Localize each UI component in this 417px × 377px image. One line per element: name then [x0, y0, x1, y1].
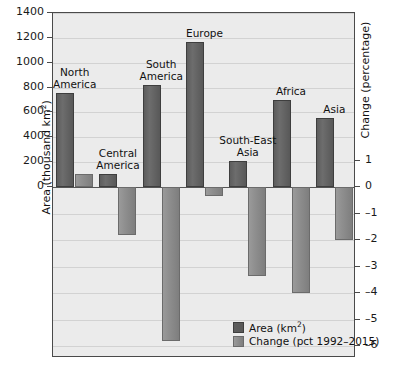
left-tick-label-0: 0	[4, 179, 44, 192]
legend-label-area: Area (km2)	[249, 320, 306, 334]
legend-label-change: Change (pct 1992–2015)	[249, 335, 379, 347]
bar-change-south-east-asia	[248, 187, 266, 276]
bar-change-north-america	[75, 174, 93, 187]
left-tick-label-200: 200	[4, 154, 44, 167]
category-label-line1: Central	[73, 147, 163, 159]
category-label-line1: Europe	[160, 27, 250, 39]
left-tick-label-1200: 1200	[4, 30, 44, 43]
legend-swatch-area-icon	[233, 322, 244, 333]
bar-area-north-america	[56, 93, 74, 187]
bar-area-south-america	[143, 85, 161, 187]
category-label-line2: Asia	[203, 146, 293, 158]
bar-area-asia	[316, 118, 334, 187]
category-label-line1: Africa	[246, 85, 336, 97]
category-label-africa: Africa	[246, 85, 336, 97]
right-tick-mark	[355, 160, 360, 161]
right-tick-label-4: –3	[365, 259, 378, 272]
legend-item-area: Area (km2)	[233, 320, 379, 334]
category-label-line2: America	[116, 70, 206, 82]
category-label-south: SouthAmerica	[116, 58, 206, 82]
legend: Area (km2) Change (pct 1992–2015)	[233, 320, 379, 348]
right-tick-mark	[355, 266, 360, 267]
left-tick-label-1400: 1400	[4, 5, 44, 18]
bar-change-south-america	[162, 187, 180, 341]
right-tick-label-0: 1	[365, 153, 372, 166]
chart-figure: Area (thousand km2) Change (percentage) …	[0, 0, 417, 377]
bar-change-central-america	[118, 187, 136, 235]
right-tick-label-1: 0	[365, 179, 372, 192]
right-tick-mark	[355, 292, 360, 293]
legend-area-post: )	[302, 322, 306, 334]
plot-area: NorthAmericaCentralAmericaSouthAmericaEu…	[52, 12, 355, 357]
bar-area-central-america	[99, 174, 117, 187]
legend-swatch-change-icon	[233, 336, 244, 347]
category-label-central: CentralAmerica	[73, 147, 163, 171]
legend-area-pre: Area (km	[249, 322, 297, 334]
category-label-line1: North	[30, 66, 120, 78]
category-label-line2: America	[73, 159, 163, 171]
category-label-line2: America	[30, 78, 120, 90]
gridline	[53, 13, 354, 14]
right-tick-label-5: –4	[365, 285, 378, 298]
category-label-line1: South-East	[203, 134, 293, 146]
right-tick-mark	[355, 186, 360, 187]
right-tick-label-2: –1	[365, 206, 378, 219]
legend-item-change: Change (pct 1992–2015)	[233, 334, 379, 348]
bar-area-south-east-asia	[229, 161, 247, 187]
category-label-europe: Europe	[160, 27, 250, 39]
right-tick-mark	[355, 239, 360, 240]
bar-change-asia	[335, 187, 353, 240]
right-axis-title: Change (percentage)	[359, 0, 372, 170]
right-tick-label-3: –2	[365, 232, 378, 245]
category-label-line1: South	[116, 58, 206, 70]
left-tick-label-400: 400	[4, 129, 44, 142]
right-tick-mark	[355, 213, 360, 214]
bar-change-africa	[292, 187, 310, 293]
bar-change-europe	[205, 187, 223, 196]
category-label-south-east: South-EastAsia	[203, 134, 293, 158]
category-label-north: NorthAmerica	[30, 66, 120, 90]
category-label-asia: Asia	[289, 103, 379, 115]
gridline	[53, 293, 354, 294]
category-label-line1: Asia	[289, 103, 379, 115]
left-tick-label-600: 600	[4, 104, 44, 117]
